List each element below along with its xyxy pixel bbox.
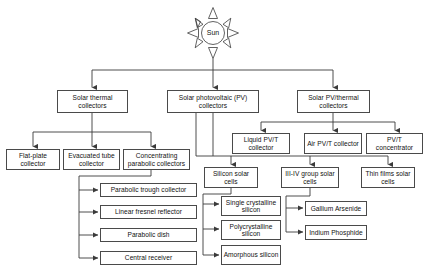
node-label: Solar PV/thermal collectors [299,94,368,109]
sun-icon [188,8,239,59]
node-linear-fresnel-reflector[interactable]: Linear fresnel reflector [100,205,197,219]
node-liquid-pvt-collector[interactable]: Liquid PV/T collector [232,133,290,154]
node-thin-films-solar-cells[interactable]: Thin films solar cells [361,167,415,188]
node-label: Evacuated tube collector [65,152,118,167]
node-label: Parabolic trough collector [111,186,187,193]
node-central-receiver[interactable]: Central receiver [100,251,197,265]
node-label: Amorphous silicon [224,251,279,258]
node-label: Indium Phosphide [309,229,363,236]
node-label: Liquid PV/T collector [234,136,288,151]
node-label: Central receiver [125,254,172,261]
node-label: Silicon solar cells [206,170,256,185]
node-gallium-arsenide[interactable]: Gallium Arsenide [305,201,367,216]
node-label: Thin films solar cells [363,170,413,185]
node-air-pvt-collector[interactable]: Air PV/T collector [304,133,362,154]
node-single-crystalline-silicon[interactable]: Single crystalline silicon [221,196,281,216]
node-evacuated-tube-collector[interactable]: Evacuated tube collector [63,149,120,170]
node-label: Single crystalline silicon [223,199,279,214]
node-amorphous-silicon[interactable]: Amorphous silicon [221,245,281,265]
node-label: Flat-plate collector [8,152,58,167]
node-label: Polycrystalline silicon [223,223,279,238]
flowchart-canvas: Sun Solar thermal collectors Solar photo… [0,0,426,278]
node-solar-photovoltaic-collectors[interactable]: Solar photovoltaic (PV) collectors [167,90,259,113]
node-silicon-solar-cells[interactable]: Silicon solar cells [204,167,258,188]
node-pvt-concentrator[interactable]: PV/T concentrator [366,133,423,154]
node-label: Gallium Arsenide [311,205,362,212]
node-label: Solar thermal collectors [59,94,126,109]
node-concentrating-parabolic-collectors[interactable]: Concentrating parabolic collectors [123,149,190,170]
node-label: Linear fresnel reflector [115,208,182,215]
node-parabolic-trough-collector[interactable]: Parabolic trough collector [100,183,197,197]
node-flat-plate-collector[interactable]: Flat-plate collector [6,149,60,170]
node-indium-phosphide[interactable]: Indium Phosphide [305,225,367,240]
node-solar-pv-thermal-collectors[interactable]: Solar PV/thermal collectors [297,90,370,113]
node-parabolic-dish[interactable]: Parabolic dish [100,228,197,242]
node-solar-thermal-collectors[interactable]: Solar thermal collectors [57,90,128,113]
node-label: PV/T concentrator [368,136,421,151]
node-label: Concentrating parabolic collectors [125,152,188,167]
node-label: Parabolic dish [127,231,169,238]
node-label: III-IV group solar cells [283,170,337,185]
node-label: Air PV/T collector [307,140,359,147]
node-iii-iv-group-solar-cells[interactable]: III-IV group solar cells [281,167,339,188]
node-polycrystalline-silicon[interactable]: Polycrystalline silicon [221,220,281,240]
node-label: Solar photovoltaic (PV) collectors [169,94,257,109]
